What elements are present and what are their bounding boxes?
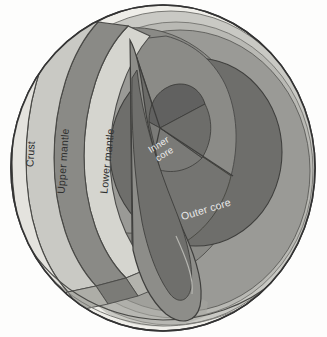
earth-cutaway-illustration (0, 0, 327, 337)
earth-cutaway-diagram: Crust Upper mantle Lower mantle Inner co… (0, 0, 327, 337)
